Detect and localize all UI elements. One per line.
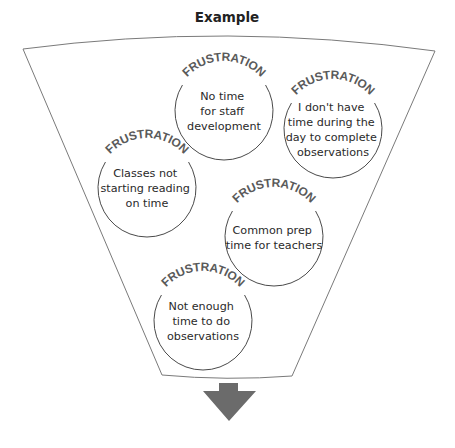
bubble-text: Not enough time to do observations — [167, 300, 239, 343]
funnel-diagram: Example FRUSTRATION No time for staff de… — [0, 0, 455, 448]
diagram-title: Example — [195, 9, 260, 25]
down-arrow-icon — [203, 383, 256, 421]
